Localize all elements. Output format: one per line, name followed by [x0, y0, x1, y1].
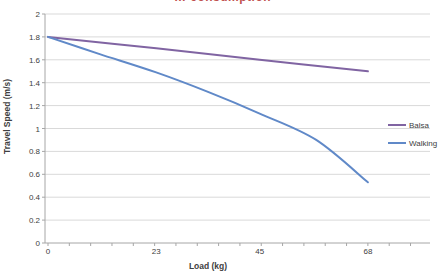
- y-tick-label: 0: [36, 239, 41, 248]
- y-tick-label: 1: [36, 125, 41, 134]
- y-tick-label: 0.8: [29, 147, 41, 156]
- chart-container: … consumption 00.20.40.60.811.21.41.61.8…: [0, 0, 445, 279]
- walking-line-swatch: [388, 142, 406, 144]
- x-tick-label: 68: [363, 247, 372, 256]
- y-tick-label: 1.4: [29, 79, 41, 88]
- y-tick-label: 1.6: [29, 56, 41, 65]
- y-tick-label: 1.8: [29, 33, 41, 42]
- legend-item-walking: Walking: [388, 135, 445, 151]
- x-tick-label: 23: [152, 247, 161, 256]
- x-tick-label: 45: [255, 247, 264, 256]
- y-tick-label: 0.6: [29, 170, 41, 179]
- balsa-line-swatch: [388, 124, 406, 126]
- y-tick-label: 0.4: [29, 193, 41, 202]
- x-tick-label: 0: [46, 247, 51, 256]
- y-tick-label: 2: [36, 10, 41, 19]
- y-axis-title: Travel Speed (m/s): [2, 47, 13, 187]
- legend-label-walking: Walking: [409, 139, 437, 148]
- walking-line-series: [48, 37, 368, 182]
- balsa-line-series: [48, 37, 368, 71]
- legend-label-balsa: Balsa: [409, 121, 429, 130]
- legend: Balsa Walking: [388, 117, 445, 153]
- chart-plot-area: 00.20.40.60.811.21.41.61.820234568: [0, 0, 445, 279]
- legend-item-balsa: Balsa: [388, 117, 445, 133]
- y-tick-label: 1.2: [29, 102, 41, 111]
- x-axis-title: Load (kg): [48, 261, 368, 271]
- y-tick-label: 0.2: [29, 216, 41, 225]
